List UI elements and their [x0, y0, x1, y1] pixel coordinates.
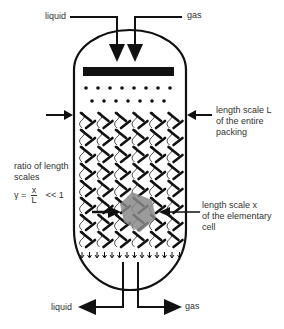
length-scale-x-line2: of the elementary: [202, 211, 272, 222]
ratio-relation: << 1: [46, 190, 64, 200]
structured-packing: [80, 112, 183, 258]
distributor-dot: [144, 86, 148, 90]
liquid-distributor-bar: [83, 67, 174, 76]
distributor-dot: [138, 99, 142, 103]
length-scale-L-line1: length scale L: [216, 105, 272, 116]
ratio-label: ratio of length scales γ = x L << 1: [14, 161, 69, 205]
inlet-liquid-label: liquid: [45, 11, 66, 22]
length-scale-L-line3: packing: [216, 127, 272, 138]
outlet-gas-label: gas: [185, 301, 200, 312]
distributor-dots: [84, 86, 172, 103]
distributor-dot: [132, 86, 136, 90]
gas-inlet: [127, 17, 182, 62]
inlet-gas-label: gas: [187, 10, 202, 21]
ratio-formula: γ = x L << 1: [14, 186, 69, 205]
drip-arrow: [170, 252, 174, 258]
length-scale-x-label: length scale x of the elementary cell: [202, 200, 272, 233]
drip-arrow: [163, 252, 167, 258]
drip-arrow: [118, 252, 122, 258]
length-scale-x-line1: length scale x: [202, 200, 272, 211]
drip-arrow: [95, 252, 99, 258]
distributor-dot: [108, 86, 112, 90]
outlet-liquid-label: liquid: [51, 302, 72, 313]
length-scale-L-line2: of the entire: [216, 116, 272, 127]
distributor-dot: [114, 99, 118, 103]
distributor-dot: [168, 86, 172, 90]
distributor-dot: [126, 99, 130, 103]
drip-arrow: [125, 252, 129, 258]
drip-arrow: [155, 252, 159, 258]
ratio-line1: ratio of length: [14, 161, 69, 172]
distributor-dot: [102, 99, 106, 103]
drip-arrow: [140, 252, 144, 258]
drip-arrow: [103, 252, 107, 258]
length-scale-x-line3: cell: [202, 222, 272, 233]
drip-arrow: [110, 252, 114, 258]
drip-arrow: [88, 252, 92, 258]
distributor-dot: [156, 86, 160, 90]
distributor-dot: [150, 99, 154, 103]
ratio-fraction: x L: [31, 186, 38, 205]
drip-arrow: [148, 252, 152, 258]
ratio-denominator: L: [32, 196, 37, 205]
ratio-line2: scales: [14, 172, 69, 183]
length-scale-L-label: length scale L of the entire packing: [216, 105, 272, 138]
distributor-dot: [120, 86, 124, 90]
distributor-dot: [162, 99, 166, 103]
distributor-dot: [96, 86, 100, 90]
drip-arrow: [133, 252, 137, 258]
ratio-symbol: γ =: [14, 190, 26, 200]
distributor-dot: [84, 86, 88, 90]
distributor-dot: [90, 99, 94, 103]
